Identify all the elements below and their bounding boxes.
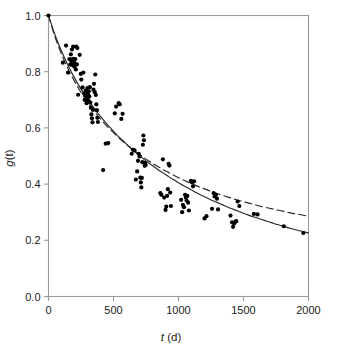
data-point (93, 72, 97, 76)
data-point (139, 185, 143, 189)
data-point (141, 133, 145, 137)
data-point (164, 204, 168, 208)
data-point (136, 159, 140, 163)
data-point (237, 204, 241, 208)
data-point (252, 212, 256, 216)
data-point (137, 154, 141, 158)
data-point (87, 94, 91, 98)
data-point (88, 101, 92, 105)
data-point (75, 46, 79, 50)
x-tick-label: 2000 (296, 304, 320, 316)
data-point (96, 120, 100, 124)
data-point (91, 108, 95, 112)
data-point (113, 111, 117, 115)
data-point (301, 231, 305, 235)
y-tick-label: 0.2 (25, 234, 40, 246)
x-tick-label: 1000 (166, 304, 190, 316)
data-point (192, 179, 196, 183)
data-point (46, 13, 50, 17)
data-point (92, 82, 96, 86)
data-point (114, 104, 118, 108)
data-point (73, 57, 77, 61)
data-point (236, 199, 240, 203)
data-point (234, 219, 238, 223)
data-point (204, 214, 208, 218)
data-point (87, 89, 91, 93)
data-point (139, 180, 143, 184)
y-tick-label: 1.0 (25, 10, 40, 22)
data-point (282, 224, 286, 228)
data-point (106, 141, 110, 145)
data-point (89, 112, 93, 116)
data-point (79, 77, 83, 81)
data-point (130, 152, 134, 156)
data-point (161, 157, 165, 161)
data-point (101, 168, 105, 172)
data-point (210, 207, 214, 211)
chart-figure: 0500100015002000 0.00.20.40.60.81.0 t (d… (0, 0, 343, 352)
data-point (75, 62, 79, 66)
y-tick-label: 0.0 (25, 291, 40, 303)
data-point (185, 194, 189, 198)
data-point (179, 198, 183, 202)
data-point (135, 169, 139, 173)
data-point (186, 201, 190, 205)
data-point (95, 116, 99, 120)
data-point (169, 204, 173, 208)
data-point (165, 194, 169, 198)
data-point (191, 184, 195, 188)
y-tick-label: 0.4 (25, 178, 40, 190)
data-point (144, 163, 148, 167)
data-point (90, 116, 94, 120)
data-point (94, 102, 98, 106)
data-point (187, 208, 191, 212)
data-point (214, 193, 218, 197)
data-point (118, 102, 122, 106)
scatter-plot-svg: 0500100015002000 0.00.20.40.60.81.0 t (d… (0, 0, 343, 352)
x-tick-label: 1500 (231, 304, 255, 316)
data-point (88, 85, 92, 89)
data-point (80, 85, 84, 89)
x-axis-title: t (d) (161, 331, 182, 343)
data-point (90, 120, 94, 124)
data-point (228, 213, 232, 217)
data-point (215, 197, 219, 201)
x-tick-label: 0 (45, 304, 51, 316)
figure-background (0, 0, 343, 352)
data-point (78, 53, 82, 57)
y-tick-label: 0.8 (25, 66, 40, 78)
data-point (119, 117, 123, 121)
data-point (66, 70, 70, 74)
y-axis-title: g(t) (3, 149, 15, 166)
data-point (140, 176, 144, 180)
data-point (69, 52, 73, 56)
data-point (64, 43, 68, 47)
data-point (167, 163, 171, 167)
data-point (76, 93, 80, 97)
data-point (121, 112, 125, 116)
y-tick-label: 0.6 (25, 122, 40, 134)
data-point (142, 138, 146, 142)
x-tick-label: 500 (104, 304, 122, 316)
data-point (81, 70, 85, 74)
data-point (94, 93, 98, 97)
data-point (182, 205, 186, 209)
data-point (180, 210, 184, 214)
data-point (216, 207, 220, 211)
data-point (132, 148, 136, 152)
data-point (95, 108, 99, 112)
data-point (74, 67, 78, 71)
data-point (168, 190, 172, 194)
data-point (255, 212, 259, 216)
data-point (61, 61, 65, 65)
data-point (134, 178, 138, 182)
data-point (141, 143, 145, 147)
